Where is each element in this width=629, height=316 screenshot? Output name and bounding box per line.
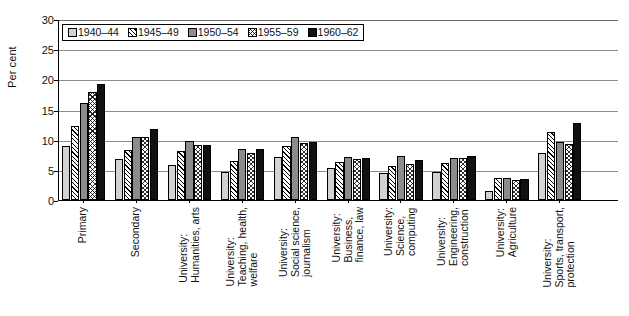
category-label: University:Social science,journalism xyxy=(278,207,313,277)
bar[interactable] xyxy=(185,141,193,200)
bar[interactable] xyxy=(397,156,405,200)
x-axis-category-labels: PrimarySecondaryUniversity:Humanities, a… xyxy=(58,203,618,316)
y-axis-tick-labels: 051015202530 xyxy=(22,0,54,316)
bar[interactable] xyxy=(247,153,255,200)
bar[interactable] xyxy=(547,132,555,200)
y-tick-mark xyxy=(54,50,58,51)
bar[interactable] xyxy=(194,145,202,200)
bar[interactable] xyxy=(309,142,317,200)
bar[interactable] xyxy=(485,191,493,200)
bar[interactable] xyxy=(141,137,149,200)
bar[interactable] xyxy=(97,84,105,200)
bar[interactable] xyxy=(494,178,502,200)
bar[interactable] xyxy=(459,158,467,200)
bar[interactable] xyxy=(353,159,361,200)
legend-item[interactable]: 1960–62 xyxy=(308,27,359,38)
bar[interactable] xyxy=(177,151,185,200)
legend: 1940–441945–491950–541955–591960–62 xyxy=(62,24,364,41)
bar[interactable] xyxy=(344,157,352,200)
category-label-wrapper: University:Humanities, arts xyxy=(167,203,211,316)
y-tick-label: 20 xyxy=(26,75,54,86)
category-label-line: finance, law xyxy=(354,207,366,262)
bar[interactable] xyxy=(573,123,581,200)
bar[interactable] xyxy=(80,103,88,200)
bar[interactable] xyxy=(203,145,211,201)
bar[interactable] xyxy=(124,150,132,200)
bar[interactable] xyxy=(238,149,246,200)
category-label: University:Science,computing xyxy=(383,207,418,256)
bar[interactable] xyxy=(450,158,458,200)
bar[interactable] xyxy=(520,179,528,200)
bar[interactable] xyxy=(62,146,70,200)
category-label: University:Agriculture xyxy=(495,207,518,257)
legend-label: 1945–49 xyxy=(138,27,179,38)
bar[interactable] xyxy=(327,168,335,200)
category-label-wrapper: University:Teaching, health,welfare xyxy=(220,203,264,316)
y-axis-title: Per cent xyxy=(6,46,18,88)
category-label-line: construction xyxy=(459,207,471,266)
bar[interactable] xyxy=(538,153,546,200)
bar[interactable] xyxy=(362,158,370,200)
legend-item[interactable]: 1940–44 xyxy=(68,27,119,38)
category-label-wrapper: University:Social science,journalism xyxy=(273,203,317,316)
bar[interactable] xyxy=(556,142,564,200)
legend-label: 1940–44 xyxy=(78,27,119,38)
x-tick-mark xyxy=(242,200,243,203)
bar[interactable] xyxy=(467,156,475,200)
legend-swatch-icon xyxy=(248,28,257,37)
category-label: Primary xyxy=(77,207,89,243)
x-tick-mark xyxy=(400,200,401,203)
bar[interactable] xyxy=(256,149,264,200)
legend-swatch-icon xyxy=(128,28,137,37)
bar[interactable] xyxy=(150,129,158,200)
x-tick-mark xyxy=(453,200,454,203)
y-tick-label: 15 xyxy=(26,105,54,116)
bar[interactable] xyxy=(168,165,176,200)
bar[interactable] xyxy=(115,159,123,200)
bar[interactable] xyxy=(300,143,308,200)
category-label-line: University: xyxy=(178,207,190,283)
bar[interactable] xyxy=(335,162,343,200)
bar-group xyxy=(379,20,423,200)
bar[interactable] xyxy=(441,163,449,200)
x-tick-mark xyxy=(189,200,190,203)
legend-item[interactable]: 1955–59 xyxy=(248,27,299,38)
y-tick-label: 10 xyxy=(26,135,54,146)
category-label-line: University: xyxy=(278,207,290,277)
bar-group xyxy=(274,20,318,200)
y-tick-mark xyxy=(54,201,58,202)
legend-item[interactable]: 1950–54 xyxy=(188,27,239,38)
bar[interactable] xyxy=(432,172,440,200)
bar-chart: Per cent 051015202530 1940–441945–491950… xyxy=(0,0,629,316)
category-label: University:Business,finance, law xyxy=(331,207,366,262)
bar[interactable] xyxy=(88,92,96,200)
bar[interactable] xyxy=(274,157,282,200)
bar[interactable] xyxy=(565,144,573,200)
legend-label: 1950–54 xyxy=(198,27,239,38)
bar[interactable] xyxy=(132,137,140,200)
category-label: Secondary xyxy=(130,207,142,257)
plot-area xyxy=(58,20,618,201)
bar[interactable] xyxy=(512,180,520,201)
category-label-line: Secondary xyxy=(130,207,142,257)
legend-item[interactable]: 1945–49 xyxy=(128,27,179,38)
bar[interactable] xyxy=(388,166,396,200)
bar[interactable] xyxy=(415,160,423,200)
legend-label: 1960–62 xyxy=(318,27,359,38)
legend-swatch-icon xyxy=(68,28,77,37)
bar[interactable] xyxy=(406,164,414,200)
category-label: University:Teaching, health,welfare xyxy=(225,207,260,286)
category-label-wrapper: University:Agriculture xyxy=(484,203,528,316)
bar[interactable] xyxy=(230,161,238,200)
bar-group xyxy=(168,20,212,200)
bar[interactable] xyxy=(221,172,229,200)
bar[interactable] xyxy=(71,126,79,200)
y-tick-mark xyxy=(54,20,58,21)
y-tick-mark xyxy=(54,111,58,112)
bar[interactable] xyxy=(282,146,290,200)
category-label-line: University: xyxy=(436,207,448,266)
bar[interactable] xyxy=(379,173,387,200)
bar[interactable] xyxy=(503,178,511,200)
bar[interactable] xyxy=(291,137,299,200)
y-tick-label: 25 xyxy=(26,45,54,56)
